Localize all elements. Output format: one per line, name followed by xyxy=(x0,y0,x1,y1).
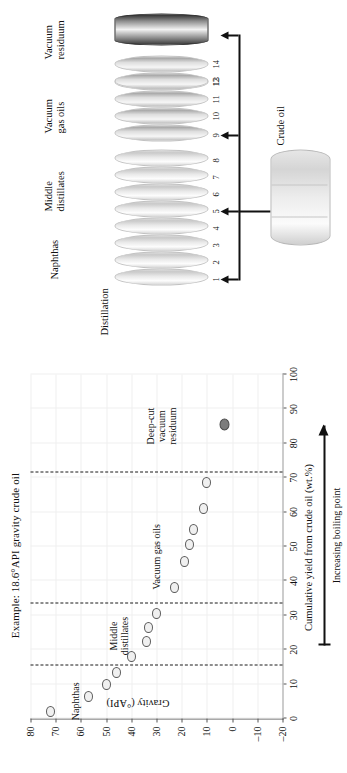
x-tick-label: 90 xyxy=(287,403,298,413)
y-gridline xyxy=(55,374,56,718)
annotation-line: Middle xyxy=(107,616,118,654)
y-gridline xyxy=(282,374,283,718)
vacuum-residuum-disc xyxy=(114,13,208,45)
chart-panel: Example: 18.6°API gravity crude oil 0102… xyxy=(6,345,344,765)
distillation-cut-disc xyxy=(114,72,208,89)
cut-separator-line xyxy=(30,602,282,603)
cut-number: 5 xyxy=(210,209,220,213)
schematic-title: Distillation xyxy=(98,288,109,335)
distillation-cut-disc xyxy=(114,234,208,251)
annotation-line: residuum xyxy=(167,407,178,444)
x-tick-label: 70 xyxy=(287,472,298,482)
distillation-cut-disc xyxy=(114,166,208,183)
cut-number: 9 xyxy=(210,133,220,137)
y-tick-label: 80 xyxy=(25,726,36,736)
crude-oil-drum xyxy=(270,149,330,245)
distillation-cut-disc xyxy=(114,149,208,166)
series-annotation: Middledistillates xyxy=(107,616,129,654)
cut-separator-line xyxy=(30,664,282,665)
cut-number: 2 xyxy=(210,260,220,264)
group-label-vacuum-gas-oils: Vacuum gas oils xyxy=(42,53,65,133)
group-label-middle-line2: distillates xyxy=(54,131,66,211)
y-tick xyxy=(282,718,283,722)
y-tick xyxy=(131,718,132,722)
cut-number: 6 xyxy=(210,192,220,196)
group-label-vacuum-residuum: Vacuum residuum xyxy=(42,0,65,59)
distillation-cut-disc xyxy=(114,55,208,72)
group-label-vr-line2: residuum xyxy=(54,0,66,59)
distillation-schematic: Distillation Naphthas Middle distillates… xyxy=(6,5,344,341)
drum-band xyxy=(271,184,327,185)
data-point xyxy=(184,539,193,550)
y-gridline xyxy=(106,374,107,718)
y-gridline xyxy=(131,374,132,718)
y-gridline xyxy=(181,374,182,718)
data-point xyxy=(169,582,178,593)
figure-canvas: Example: 18.6°API gravity crude oil 0102… xyxy=(0,0,347,773)
data-point xyxy=(152,608,161,619)
x-axis-title: Cumulative yield from crude oil (wt.%) xyxy=(302,375,313,719)
distillation-cut-disc xyxy=(114,200,208,217)
cut-number: 7 xyxy=(210,175,220,179)
y-tick-label: 0 xyxy=(226,726,237,731)
y-gridline xyxy=(257,374,258,718)
y-tick xyxy=(30,718,31,722)
data-point xyxy=(202,477,211,488)
annotation-line: distillates xyxy=(118,616,129,654)
y-tick-label: –10 xyxy=(251,726,262,741)
annotation-line: Deep-cut xyxy=(145,407,156,444)
boiling-point-arrow: Increasing boiling point xyxy=(318,425,342,645)
y-gridline xyxy=(232,374,233,718)
group-label-middle-line1: Middle xyxy=(42,131,54,211)
cut-number: 13 xyxy=(210,77,220,86)
feed-manifold-line xyxy=(238,34,240,280)
feed-riser-line xyxy=(227,134,238,136)
arrow-label: Increasing boiling point xyxy=(330,425,341,645)
cut-number: 8 xyxy=(210,158,220,162)
feed-riser-line xyxy=(227,210,238,212)
y-tick-label: 20 xyxy=(176,726,187,736)
data-point xyxy=(179,556,188,567)
x-tick-label: 80 xyxy=(287,438,298,448)
data-point xyxy=(219,418,229,430)
data-point xyxy=(101,678,110,689)
series-annotation: Vacuum gas oils xyxy=(151,524,162,590)
cut-number: 1 xyxy=(210,277,220,281)
data-point xyxy=(188,523,197,534)
y-gridline xyxy=(80,374,81,718)
x-tick-label: 0 xyxy=(287,716,298,721)
distillation-cut-disc xyxy=(114,90,208,107)
y-gridline xyxy=(30,374,31,718)
y-tick xyxy=(206,718,207,722)
series-annotation: Deep-cutvacuumresiduum xyxy=(145,407,178,444)
x-tick-label: 20 xyxy=(287,644,298,654)
cut-number: 10 xyxy=(210,112,220,121)
x-tick-label: 60 xyxy=(287,507,298,517)
arrow-shaft xyxy=(323,425,325,645)
y-tick xyxy=(106,718,107,722)
group-label-vr-line1: Vacuum xyxy=(42,0,54,59)
feed-riser-line xyxy=(227,34,238,36)
y-axis-title: Gravity (°API) xyxy=(38,698,238,709)
data-point xyxy=(198,503,207,514)
annotation-line: vacuum xyxy=(156,407,167,444)
distillation-cut-disc xyxy=(114,124,208,141)
y-gridline xyxy=(206,374,207,718)
y-tick-label: 10 xyxy=(201,726,212,736)
group-label-vgo-line2: gas oils xyxy=(54,53,66,133)
crude-feed-line xyxy=(238,210,270,212)
crude-oil-label: Crude oil xyxy=(274,106,285,145)
y-tick-label: 60 xyxy=(75,726,86,736)
distillation-cut-disc xyxy=(114,217,208,234)
distillation-cut-disc xyxy=(114,268,208,285)
annotation-line: Vacuum gas oils xyxy=(151,524,162,590)
y-tick xyxy=(181,718,182,722)
feed-riser-line xyxy=(227,278,238,280)
y-tick xyxy=(55,718,56,722)
figure-root: Example: 18.6°API gravity crude oil 0102… xyxy=(0,0,347,773)
group-label-vgo-line1: Vacuum xyxy=(42,53,54,133)
distillation-cut-disc xyxy=(114,251,208,268)
cut-number: 4 xyxy=(210,226,220,230)
x-tick-label: 50 xyxy=(287,541,298,551)
y-tick-label: 70 xyxy=(50,726,61,736)
